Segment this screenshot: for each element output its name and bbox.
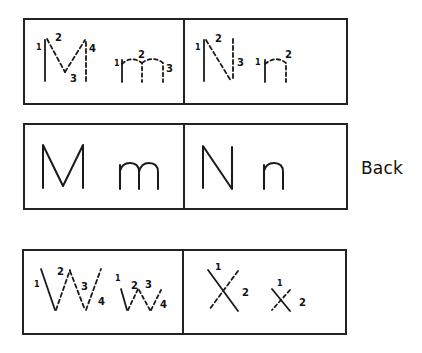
svg-text:4: 4 bbox=[98, 296, 105, 307]
svg-text:2: 2 bbox=[138, 49, 145, 60]
svg-text:1: 1 bbox=[215, 262, 221, 272]
svg-text:2: 2 bbox=[55, 32, 62, 43]
svg-text:1: 1 bbox=[34, 280, 40, 289]
svg-text:3: 3 bbox=[70, 73, 77, 84]
stroke-order-lower-x bbox=[272, 289, 290, 311]
svg-text:2: 2 bbox=[285, 49, 292, 60]
svg-text:4: 4 bbox=[89, 43, 96, 54]
stroke-order-lower-n bbox=[265, 59, 286, 82]
svg-text:2: 2 bbox=[242, 287, 249, 298]
stroke-order-upper-w bbox=[41, 269, 101, 310]
letter-lower-n bbox=[264, 163, 283, 189]
svg-text:1: 1 bbox=[195, 43, 201, 52]
stroke-order-lower-m bbox=[122, 59, 163, 82]
svg-text:2: 2 bbox=[57, 266, 64, 277]
svg-text:4: 4 bbox=[160, 299, 167, 310]
stroke-order-upper-n bbox=[204, 39, 233, 81]
svg-text:3: 3 bbox=[81, 281, 88, 292]
svg-text:1: 1 bbox=[255, 58, 261, 67]
stroke-order-upper-m bbox=[45, 39, 86, 81]
svg-text:3: 3 bbox=[237, 57, 244, 68]
svg-text:3: 3 bbox=[145, 279, 152, 290]
svg-text:2: 2 bbox=[131, 280, 138, 291]
letter-lower-m bbox=[120, 163, 158, 189]
svg-text:1: 1 bbox=[114, 59, 120, 68]
letter-upper-m bbox=[43, 145, 83, 188]
stroke-order-upper-x bbox=[208, 270, 238, 311]
svg-text:2: 2 bbox=[299, 297, 306, 308]
svg-text:3: 3 bbox=[166, 63, 173, 74]
letter-upper-n bbox=[203, 146, 232, 189]
letter-glyphs: 1 2 3 4 1 2 3 1 2 3 1 2 1 2 3 4 1 2 3 4 … bbox=[0, 0, 422, 353]
svg-text:2: 2 bbox=[215, 33, 222, 44]
svg-text:1: 1 bbox=[277, 279, 283, 288]
svg-text:1: 1 bbox=[36, 43, 42, 52]
back-label: Back bbox=[361, 158, 403, 178]
svg-text:1: 1 bbox=[115, 274, 121, 283]
stroke-order-lower-w bbox=[121, 289, 161, 310]
